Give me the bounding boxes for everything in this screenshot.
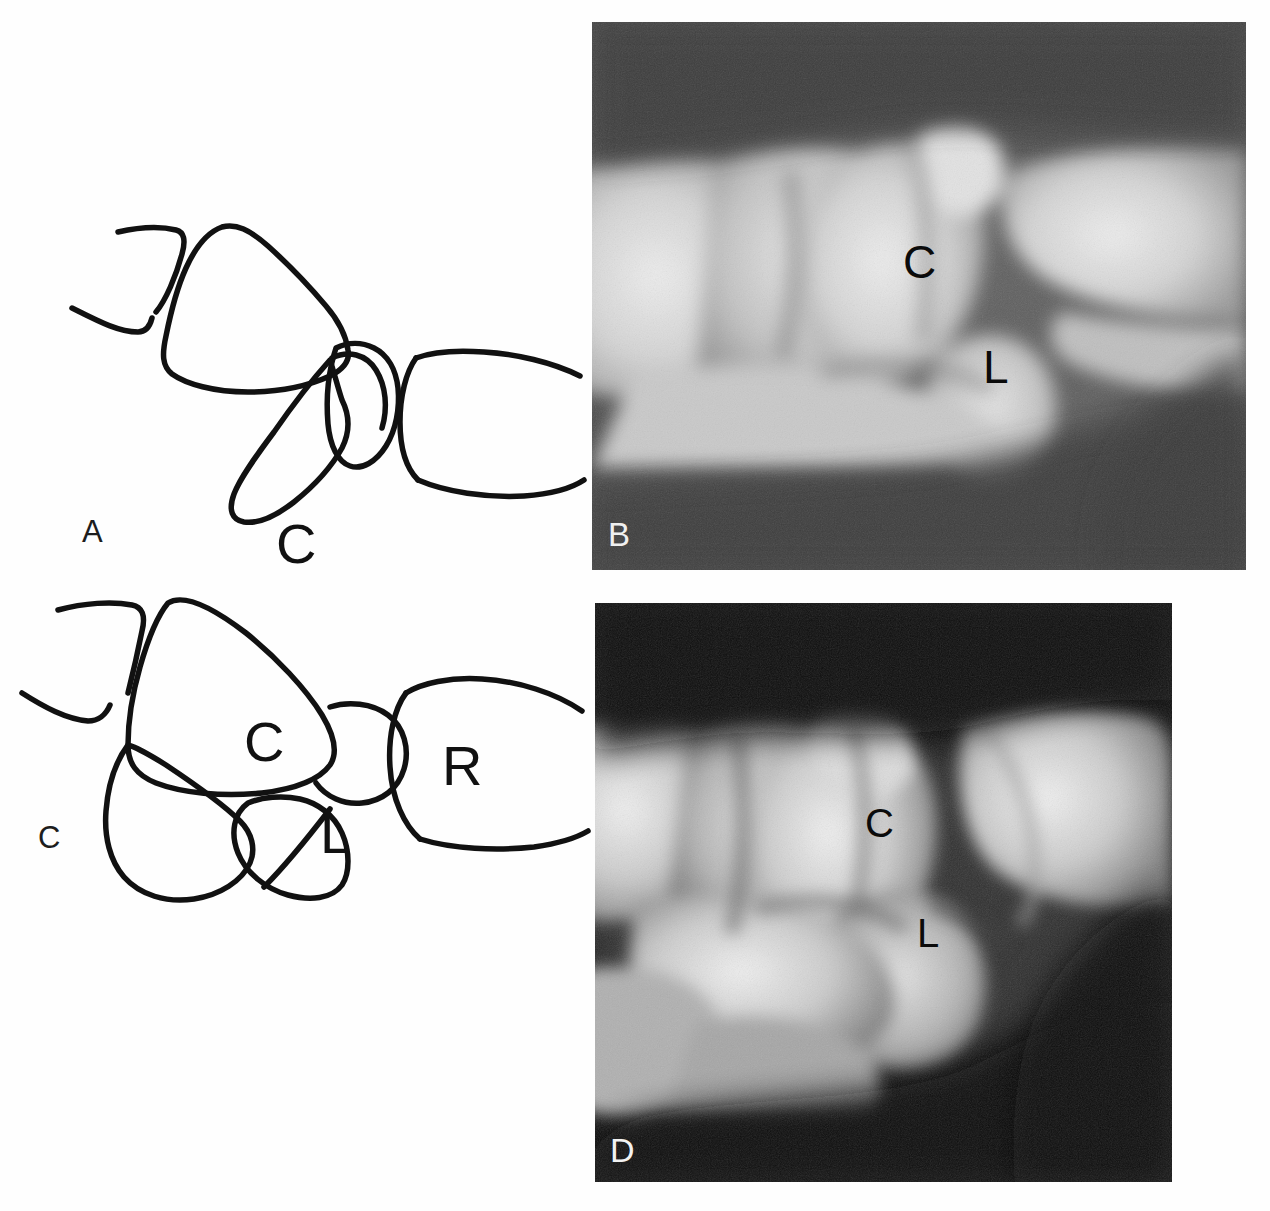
panel-b-xray-svg	[592, 22, 1246, 570]
bone-outline-capitate-c	[128, 600, 334, 795]
bone-label-capitate-c: C	[244, 710, 284, 773]
bone-outline-scaphoid-c	[106, 745, 253, 900]
bone-outline-metacarpal-volar	[72, 308, 152, 332]
bone-label-lunate-d: L	[917, 913, 939, 953]
panel-b-image: C L	[592, 22, 1246, 570]
figure-canvas: C L R	[0, 0, 1270, 1211]
bone-outline-metacarpal-dorsal-c	[58, 603, 144, 693]
bone-outline-radius-volar	[418, 480, 584, 496]
bone-outline-radius-volar-c	[420, 831, 588, 849]
panel-d-radiograph: C L	[595, 603, 1172, 1182]
bone-label-capitate-a: C	[276, 512, 316, 575]
bone-label-lunate-c: L	[320, 802, 351, 865]
panel-d-image: C L	[595, 603, 1172, 1182]
bone-outline-radius-body	[400, 358, 418, 480]
panel-letter-d: D	[610, 1133, 635, 1167]
bone-label-lunate-b: L	[983, 344, 1009, 390]
panel-c-drawing-svg: C L R	[0, 585, 592, 945]
bone-label-radius-c: R	[442, 734, 482, 797]
bone-label-capitate-d: C	[865, 803, 894, 843]
panel-letter-a: A	[82, 516, 103, 547]
bone-label-capitate-b: C	[903, 239, 936, 285]
panel-b-radiograph: C L	[592, 22, 1246, 570]
bone-outline-metacarpal-volar-c	[22, 693, 110, 721]
panel-letter-b: B	[608, 518, 630, 551]
panel-c-line-drawing: C L R	[0, 585, 592, 945]
bone-outline-radius-c	[406, 679, 582, 711]
panel-letter-c: C	[38, 822, 60, 853]
panel-d-xray-svg	[595, 603, 1172, 1182]
bone-outline-radius	[416, 351, 580, 376]
